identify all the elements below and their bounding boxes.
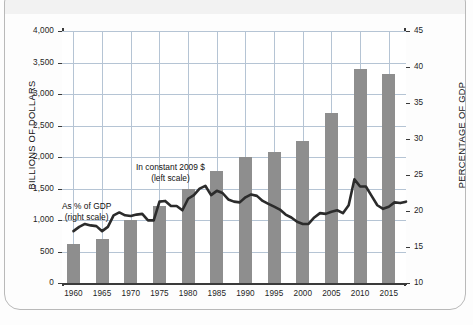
plot-area: [62, 31, 406, 283]
right-axis-tick-mark: [406, 283, 410, 284]
left-axis-tick-label: 0: [8, 278, 54, 287]
x-axis-tick-label: 2015: [372, 289, 406, 298]
right-axis-tick-label: 15: [414, 242, 444, 251]
annotation-bars-line1: In constant 2009 $: [136, 162, 205, 173]
right-axis-tick-label: 10: [414, 278, 444, 287]
right-axis-tick-mark: [406, 211, 410, 212]
left-axis-tick-label: 2,000: [8, 152, 54, 161]
right-axis-tick-mark: [406, 247, 410, 248]
right-axis-tick-mark: [406, 67, 410, 68]
left-axis-tick-label: 1,500: [8, 184, 54, 193]
right-axis-tick-label: 20: [414, 206, 444, 215]
line-series: [62, 31, 406, 283]
chart-figure: BILLIONS OF DOLLARS PERCENTAGE OF GDP 05…: [0, 0, 473, 325]
left-axis-tick-label: 4,000: [8, 26, 54, 35]
bottom-axis-line: [62, 283, 407, 285]
left-axis-tick-label: 3,500: [8, 58, 54, 67]
right-axis-tick-label: 35: [414, 98, 444, 107]
right-axis-tick-mark: [406, 175, 410, 176]
right-axis-tick-mark: [406, 103, 410, 104]
left-axis-tick-label: 2,500: [8, 121, 54, 130]
left-axis-tick-label: 1,000: [8, 215, 54, 224]
annotation-bars-line2: (left scale): [136, 173, 205, 184]
annotation-line: As % of GDP (right scale): [62, 201, 111, 222]
right-axis-tick-mark: [406, 139, 410, 140]
right-axis-tick-label: 25: [414, 170, 444, 179]
right-axis-title: PERCENTAGE OF GDP: [457, 25, 467, 245]
left-axis-tick-label: 3,000: [8, 89, 54, 98]
right-axis-tick-label: 30: [414, 134, 444, 143]
gdp-percentage-line: [73, 179, 406, 231]
right-axis-tick-label: 45: [414, 26, 444, 35]
annotation-line-line1: As % of GDP: [62, 201, 111, 212]
left-axis-tick-label: 500: [8, 247, 54, 256]
annotation-line-line2: (right scale): [62, 212, 111, 223]
left-axis-tick-mark: [58, 283, 62, 284]
annotation-bars: In constant 2009 $ (left scale): [136, 162, 205, 183]
right-axis-tick-label: 40: [414, 62, 444, 71]
right-axis-tick-mark: [406, 31, 410, 32]
